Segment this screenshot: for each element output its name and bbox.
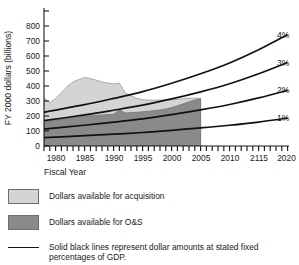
y-tick-0: 0 (35, 141, 40, 151)
x-tick-2020: 2020 (277, 153, 296, 163)
y-tick-100: 100 (26, 126, 40, 136)
x-tick-1995: 1995 (134, 153, 153, 163)
legend-line-icon (8, 247, 39, 248)
legend-swatch-acquisition-icon (8, 189, 39, 204)
legend-item-ons: Dollars available for O&S (8, 215, 143, 230)
legend-item-acquisition: Dollars available for acquisition (8, 189, 164, 204)
y-tick-500: 500 (26, 66, 40, 76)
y-tick-200: 200 (26, 111, 40, 121)
y-axis-label: FY 2000 dollars (billions) (3, 31, 13, 126)
y-tick-600: 600 (26, 51, 40, 61)
legend-swatch-ons-icon (8, 215, 39, 230)
x-tick-1980: 1980 (47, 153, 66, 163)
legend-label-acquisition: Dollars available for acquisition (49, 189, 164, 201)
x-tick-2010: 2010 (221, 153, 240, 163)
legend-item-gdp-lines: Solid black lines represent dollar amoun… (8, 240, 259, 263)
x-tick-1985: 1985 (76, 153, 95, 163)
curve-label-1pct: 1% (277, 113, 290, 123)
x-tick-2005: 2005 (192, 153, 211, 163)
legend-label-ons: Dollars available for O&S (49, 215, 143, 227)
y-tick-300: 300 (26, 96, 40, 106)
curve-label-2pct: 2% (277, 85, 290, 95)
chart-figure: FY 2000 dollars (billions) 0 100 200 300… (0, 0, 299, 265)
y-tick-800: 800 (26, 21, 40, 31)
x-tick-2000: 2000 (163, 153, 182, 163)
x-axis-ticks (44, 146, 288, 151)
y-tick-400: 400 (26, 81, 40, 91)
legend-label-gdp-note: Solid black lines represent dollar amoun… (49, 240, 259, 263)
x-tick-2115: 2115 (250, 153, 268, 163)
curve-label-3pct: 3% (277, 58, 290, 68)
x-axis-label: Fiscal Year (44, 167, 86, 177)
y-tick-700: 700 (26, 36, 40, 46)
x-tick-1990: 1990 (105, 153, 124, 163)
curve-label-4pct: 4% (277, 30, 290, 40)
